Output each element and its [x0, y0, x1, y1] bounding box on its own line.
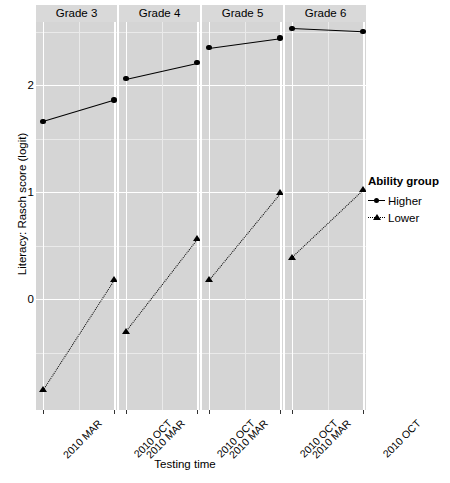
legend-item-label: Higher: [388, 195, 422, 207]
data-point-higher: [289, 26, 295, 32]
gridline-minor-horizontal: [119, 246, 200, 247]
facet-strip-label: Grade 5: [202, 5, 283, 22]
gridline-minor-horizontal: [202, 139, 283, 140]
x-axis-tick-mark: [280, 410, 281, 414]
gridline-major-vertical: [114, 22, 115, 410]
y-axis-tick-label: 0: [8, 294, 34, 304]
data-point-higher: [360, 29, 366, 35]
facet-strip-label: Grade 4: [119, 5, 200, 22]
data-point-lower: [110, 276, 117, 282]
legend-key-icon: [368, 209, 385, 226]
gridline-minor-horizontal: [119, 139, 200, 140]
gridline-major-horizontal: [36, 299, 117, 300]
legend-item-label: Lower: [388, 212, 419, 224]
data-point-lower: [359, 186, 366, 192]
gridline-minor-horizontal: [285, 353, 366, 354]
gridline-major-horizontal: [36, 85, 117, 86]
x-axis-tick-label: 2010 OCT: [380, 417, 423, 460]
y-axis-tick-label: 2: [8, 80, 34, 90]
gridline-minor-horizontal: [202, 246, 283, 247]
data-point-higher: [111, 97, 117, 103]
legend: Ability group HigherLower: [368, 175, 450, 226]
gridline-major-vertical: [43, 22, 44, 410]
facet-strip-label: Grade 3: [36, 5, 117, 22]
facet-panel: [119, 22, 200, 410]
y-axis-tick-group: 012: [8, 0, 34, 483]
facet-panel: [202, 22, 283, 410]
data-point-higher: [277, 35, 283, 41]
x-axis-tick-mark: [363, 410, 364, 414]
data-point-lower: [39, 386, 47, 392]
gridline-minor-horizontal: [119, 353, 200, 354]
gridline-major-horizontal: [36, 192, 117, 193]
gridline-minor-horizontal: [36, 353, 117, 354]
data-point-lower: [288, 254, 296, 260]
gridline-minor-horizontal: [202, 32, 283, 33]
y-axis-tick-label: 1: [8, 187, 34, 197]
gridline-minor-horizontal: [202, 353, 283, 354]
gridline-major-vertical: [197, 22, 198, 410]
x-axis-tick-label: 2010 MAR: [60, 417, 104, 461]
facet-strip-label: Grade 6: [285, 5, 366, 22]
legend-item-lower[interactable]: Lower: [368, 209, 450, 226]
facet-panel: [285, 22, 366, 410]
gridline-major-horizontal: [202, 299, 283, 300]
x-axis-tick-mark: [209, 410, 210, 414]
gridline-minor-horizontal: [36, 139, 117, 140]
gridline-major-vertical: [363, 22, 364, 410]
chart-container: Literacy: Rasch score (logit) 012 Grade …: [0, 0, 450, 483]
gridline-minor-horizontal: [119, 32, 200, 33]
gridline-minor-vertical: [162, 22, 163, 410]
x-axis-tick-mark: [114, 410, 115, 414]
x-axis-tick-mark: [126, 410, 127, 414]
x-axis-tick-mark: [292, 410, 293, 414]
data-point-higher: [206, 45, 212, 51]
legend-title: Ability group: [368, 175, 450, 187]
gridline-major-horizontal: [285, 299, 366, 300]
gridline-major-horizontal: [202, 192, 283, 193]
gridline-minor-vertical: [328, 22, 329, 410]
gridline-major-horizontal: [119, 299, 200, 300]
data-point-lower: [193, 235, 200, 241]
legend-item-group: HigherLower: [368, 192, 450, 226]
gridline-minor-horizontal: [36, 32, 117, 33]
circle-marker-icon: [374, 198, 380, 204]
data-point-lower: [205, 276, 213, 282]
data-point-lower: [276, 189, 283, 195]
gridline-major-horizontal: [202, 85, 283, 86]
gridline-major-vertical: [280, 22, 281, 410]
legend-item-higher[interactable]: Higher: [368, 192, 450, 209]
gridline-minor-vertical: [79, 22, 80, 410]
x-axis-title: Testing time: [0, 458, 370, 470]
data-point-lower: [122, 328, 130, 334]
facet-panel: [36, 22, 117, 410]
legend-key-icon: [368, 192, 385, 209]
gridline-major-vertical: [209, 22, 210, 410]
gridline-minor-horizontal: [36, 246, 117, 247]
data-point-higher: [40, 119, 46, 125]
data-point-higher: [123, 76, 129, 82]
gridline-major-horizontal: [119, 85, 200, 86]
triangle-marker-icon: [373, 214, 381, 220]
x-axis-tick-mark: [197, 410, 198, 414]
x-axis-tick-mark: [43, 410, 44, 414]
gridline-minor-vertical: [245, 22, 246, 410]
data-point-higher: [194, 60, 200, 66]
gridline-minor-horizontal: [285, 246, 366, 247]
gridline-major-horizontal: [119, 192, 200, 193]
gridline-major-horizontal: [285, 192, 366, 193]
gridline-major-vertical: [292, 22, 293, 410]
gridline-minor-horizontal: [285, 139, 366, 140]
gridline-major-horizontal: [285, 85, 366, 86]
